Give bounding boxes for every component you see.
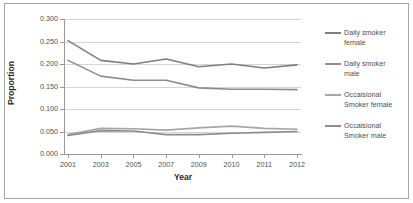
y-tick-label: 0.300 [18,15,58,23]
y-tick-mark [60,87,64,88]
legend-item[interactable]: Daily smoker male [325,59,409,79]
series-line-1 [68,60,297,89]
x-tick-mark [297,154,298,158]
x-tick-mark [199,154,200,158]
x-tick-mark [133,154,134,158]
y-tick-label-text: 0.250 [22,38,58,46]
legend-label: Occaisional Smoker female [344,90,392,109]
legend-label: Daily smoker female [344,28,386,47]
x-tick-label: 2009 [182,160,216,169]
x-tick-label: 2003 [84,160,118,169]
x-tick-mark [166,154,167,158]
y-tick-label: 0.200 [18,60,58,68]
legend-item[interactable]: Occaisional Smoker female [325,90,409,110]
y-tick-mark [60,64,64,65]
legend-swatch-line-icon [325,94,341,96]
x-tick-mark [101,154,102,158]
y-tick-label-text: 0.100 [22,105,58,113]
x-axis-line [64,154,302,155]
legend-item[interactable]: Occaisional Smoker male [325,121,409,141]
legend-label: Daily smoker male [344,59,386,78]
y-tick-label: 0.000 [18,150,58,158]
y-tick-mark [60,132,64,133]
x-tick-label: 2011 [247,160,281,169]
y-axis-title: Proportion [6,48,16,118]
x-axis-title: Year [64,172,302,182]
series-line-3 [68,131,297,136]
screenshot-root: 0.0000.0500.1000.1500.2000.2500.300 2001… [0,0,413,203]
series-line-0 [68,41,297,68]
y-tick-label: 0.050 [18,128,58,136]
y-tick-label-text: 0.050 [22,128,58,136]
x-tick-label: 2012 [280,160,314,169]
y-tick-label-text: 0.150 [22,83,58,91]
legend-swatch-line-icon [325,63,341,65]
x-tick-label: 2007 [149,160,183,169]
x-tick-mark [232,154,233,158]
y-tick-mark [60,154,64,155]
x-tick-label: 2005 [116,160,150,169]
x-tick-label: 2010 [215,160,249,169]
x-tick-mark [264,154,265,158]
plot-area [64,19,301,154]
y-tick-label: 0.250 [18,38,58,46]
x-tick-mark [68,154,69,158]
y-tick-label-text: 0.200 [22,60,58,68]
chart-legend: Daily smoker femaleDaily smoker maleOcca… [325,28,409,152]
x-tick-label: 2001 [51,160,85,169]
y-tick-label: 0.100 [18,105,58,113]
y-tick-label-text: 0.000 [22,150,58,158]
y-tick-label-text: 0.300 [22,15,58,23]
legend-label: Occaisional Smoker male [344,121,386,140]
y-tick-label: 0.150 [18,83,58,91]
line-chart: 0.0000.0500.1000.1500.2000.2500.300 2001… [0,0,413,203]
legend-item[interactable]: Daily smoker female [325,28,409,48]
series-lines [64,19,301,154]
legend-swatch-line-icon [325,32,341,34]
y-axis-line [64,19,65,155]
y-tick-mark [60,19,64,20]
y-tick-mark [60,42,64,43]
y-tick-mark [60,109,64,110]
legend-swatch-line-icon [325,125,341,127]
